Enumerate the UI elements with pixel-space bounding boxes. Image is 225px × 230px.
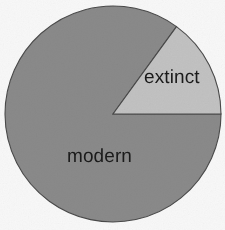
pie-slice-label-extinct: extinct [144, 68, 200, 87]
pie-chart-canvas [0, 0, 225, 230]
pie-slice-label-modern: modern [67, 147, 132, 166]
pie-chart-figure: extinct modern [0, 0, 225, 230]
